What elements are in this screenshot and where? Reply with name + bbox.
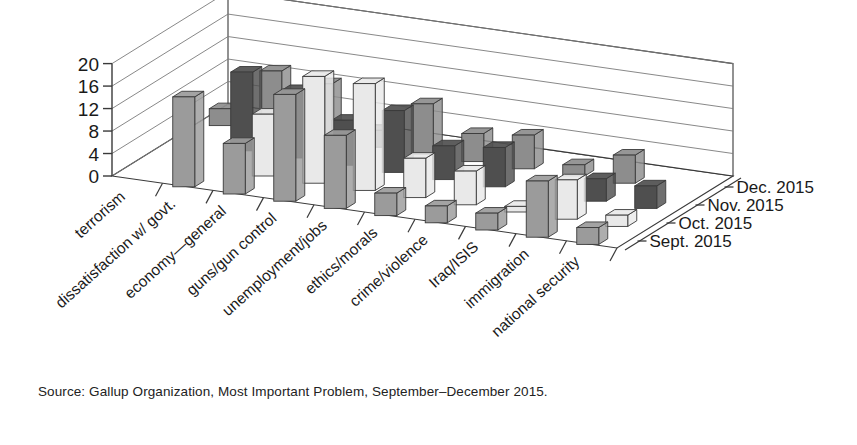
bar[interactable] [606,210,637,227]
bar[interactable] [635,180,666,208]
bar[interactable] [223,138,254,194]
y-axis-tick-label: 4 [88,144,99,165]
series-legend-label[interactable]: Oct. 2015 [679,214,753,233]
y-axis-tick-label: 12 [78,99,99,120]
source-caption: Source: Gallup Organization, Most Import… [38,384,548,399]
bar-chart-3d: 048121620terrorismdissatisfaction w/ gov… [0,0,857,445]
bar[interactable] [324,130,355,209]
bar[interactable] [274,89,305,201]
x-axis-category-label: Iraq/ISIS [425,238,481,291]
bar[interactable] [563,159,594,176]
bar[interactable] [577,222,608,244]
bar[interactable] [613,150,644,184]
bar[interactable] [476,208,507,230]
bar[interactable] [173,91,204,187]
bar[interactable] [483,142,514,187]
bar[interactable] [584,173,615,201]
x-axis-category-label: economy—general [121,202,229,302]
x-axis-category-label: terrorism [71,188,128,242]
bar[interactable] [526,175,557,237]
series-legend-label[interactable]: Sept. 2015 [650,232,732,251]
series-legend-label[interactable]: Nov. 2015 [708,196,784,215]
y-axis: 048121620 [78,54,112,187]
bar[interactable] [425,200,456,222]
bar[interactable] [353,78,384,190]
y-axis-tick-label: 20 [78,54,99,75]
bar[interactable] [512,129,543,168]
bar[interactable] [555,174,586,219]
y-axis-tick-label: 16 [78,76,99,97]
bar[interactable] [375,188,406,216]
series-legend-label[interactable]: Dec. 2015 [737,178,815,197]
bar[interactable] [454,165,485,204]
bar[interactable] [404,153,435,198]
y-axis-tick-label: 0 [88,166,99,187]
chart-page: 048121620terrorismdissatisfaction w/ gov… [0,0,857,445]
x-axis-category-label: unemployment/jobs [219,216,330,319]
y-axis-tick-label: 8 [88,121,99,142]
